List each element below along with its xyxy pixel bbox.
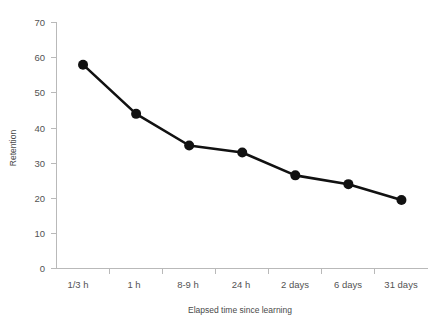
x-tick-label-4: 2 days <box>281 279 309 290</box>
data-point-2 <box>184 141 194 151</box>
chart-canvas: 70 60 50 40 30 20 10 0 1/3 h 1 h 8-9 h 2… <box>0 0 436 331</box>
data-point-3 <box>237 148 247 158</box>
x-tick-label-1: 1 h <box>127 279 140 290</box>
y-tick-label-0: 0 <box>40 263 45 274</box>
x-tick-label-0: 1/3 h <box>67 279 88 290</box>
x-tick-label-2: 8-9 h <box>177 279 199 290</box>
data-point-0 <box>78 60 88 70</box>
y-axis-title: Retention <box>8 130 18 167</box>
data-point-6 <box>396 195 406 205</box>
chart-background <box>0 0 436 331</box>
y-tick-label-10: 10 <box>34 228 45 239</box>
y-tick-label-40: 40 <box>34 123 45 134</box>
retention-forgetting-curve-chart: 70 60 50 40 30 20 10 0 1/3 h 1 h 8-9 h 2… <box>0 0 436 331</box>
y-tick-label-20: 20 <box>34 193 45 204</box>
data-point-1 <box>131 109 141 119</box>
x-tick-label-3: 24 h <box>232 279 251 290</box>
x-axis-title: Elapsed time since learning <box>188 305 292 315</box>
x-tick-label-6: 31 days <box>384 279 418 290</box>
data-point-4 <box>290 170 300 180</box>
data-point-5 <box>343 179 353 189</box>
y-tick-label-70: 70 <box>34 17 45 28</box>
y-tick-label-60: 60 <box>34 52 45 63</box>
y-tick-label-50: 50 <box>34 87 45 98</box>
x-tick-label-5: 6 days <box>334 279 362 290</box>
y-tick-label-30: 30 <box>34 158 45 169</box>
